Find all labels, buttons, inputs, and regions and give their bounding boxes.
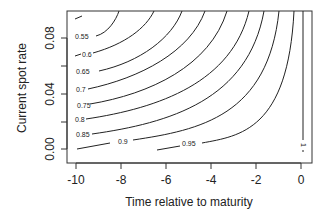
label-0.55: 0.55 [75,33,89,40]
contour-0.55 [96,11,119,36]
contour-0.95 [157,11,294,150]
x-axis [76,163,301,169]
label-0.8: 0.8 [75,116,85,123]
contour-0.8 [86,11,249,119]
y-tick-label: 0.00 [43,137,57,161]
x-axis-label: Time relative to maturity [125,195,253,209]
label-1: 1 [300,143,307,147]
y-axis [61,38,67,149]
y-tick-label: 0.08 [43,26,57,50]
x-tick-label: -6 [161,173,172,187]
label-0.7: 0.7 [76,86,86,93]
x-tick-label: -4 [206,173,217,187]
label-0.9: 0.9 [118,138,128,145]
x-tick-label: 0 [298,173,305,187]
y-axis-label: Current spot rate [15,43,29,133]
y-tick-labels: 0.00 0.04 0.08 [43,26,57,161]
contour-labels: 0.55 0.6 0.65 0.7 0.75 0.8 0.85 0.9 0.95… [75,33,307,147]
contour-0.5 [75,16,82,19]
contour-lines [75,11,303,152]
label-0.75: 0.75 [77,102,91,109]
label-0.6: 0.6 [82,51,92,58]
x-tick-label: -2 [251,173,262,187]
x-tick-label: -10 [67,173,85,187]
y-tick-label: 0.04 [43,82,57,106]
contour-0.75 [90,11,227,104]
contour-0.65 [99,11,182,71]
label-0.95: 0.95 [182,140,196,147]
label-0.65: 0.65 [76,68,90,75]
x-tick-label: -8 [116,173,127,187]
x-tick-labels: -10 -8 -6 -4 -2 0 [67,173,304,187]
label-0.85: 0.85 [76,131,90,138]
contour-chart: 0.55 0.6 0.65 0.7 0.75 0.8 0.85 0.9 0.95… [0,0,327,214]
